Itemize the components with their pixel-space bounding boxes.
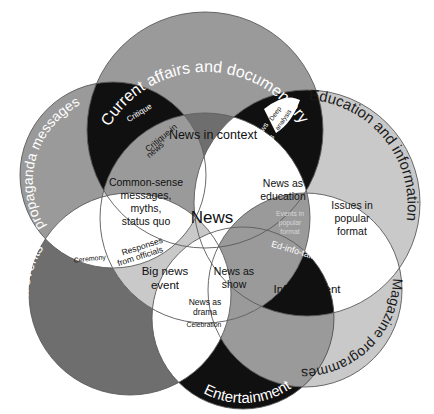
label-common-sense-1: Common-sense (109, 176, 183, 188)
label-news-in-context-line1: News in context (169, 128, 258, 142)
label-common-sense-2: messages, (121, 189, 172, 201)
label-big-news-2: event (151, 279, 180, 291)
venn-diagram-canvas: Current affairs and documentary Educatio… (0, 0, 434, 414)
label-news-as-show-1: News as (214, 265, 254, 277)
label-celebration: Celebration (187, 321, 222, 328)
label-issues-popular-2: popular (334, 212, 370, 224)
label-info-tainment: Info-tainment (273, 283, 341, 295)
label-news-as-drama-1: News as (189, 297, 222, 307)
label-news-as-education-2: education (260, 190, 306, 202)
label-issues-popular-1: Issues in (331, 199, 373, 211)
label-events-popular-3: format (280, 228, 299, 235)
label-common-sense-3: myths, (131, 202, 162, 214)
venn-diagram-svg: Current affairs and documentary Educatio… (0, 0, 434, 414)
label-news-as-education-1: News as (263, 177, 303, 189)
label-news-as-drama-2: drama (193, 307, 217, 317)
label-news-center: News (191, 208, 234, 227)
label-common-sense-4: status quo (122, 215, 171, 227)
label-issues-popular-3: format (337, 225, 367, 237)
label-big-news-1: Big news (142, 265, 189, 277)
label-events-popular-2: popular (279, 219, 302, 227)
label-news-as-show-2: show (222, 278, 247, 290)
label-events-popular-1: Events in (276, 210, 304, 217)
